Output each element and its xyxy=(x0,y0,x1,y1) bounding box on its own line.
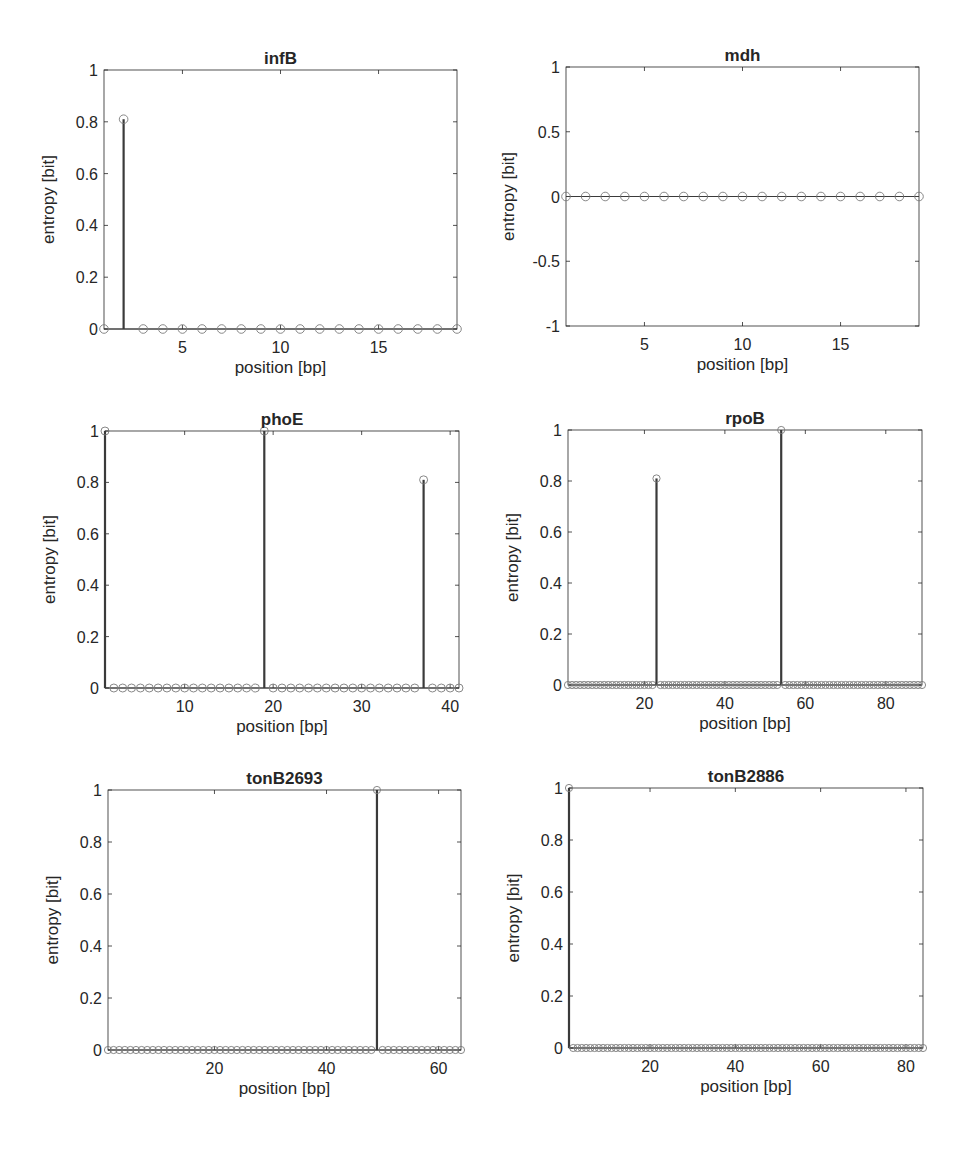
subplot-title: phoE xyxy=(261,410,304,429)
y-tick-label: 0.8 xyxy=(80,834,102,851)
x-tick-label: 40 xyxy=(318,1060,336,1077)
x-axis-label: position [bp] xyxy=(699,714,791,733)
x-tick-label: 30 xyxy=(353,698,371,715)
y-tick-label: 0.8 xyxy=(540,473,562,490)
y-axis-label: entropy [bit] xyxy=(39,155,58,244)
x-axis-label: position [bp] xyxy=(239,1079,331,1098)
y-tick-label: 1 xyxy=(553,422,562,439)
x-tick-label: 60 xyxy=(812,1058,830,1075)
y-axis-label: entropy [bit] xyxy=(40,515,59,604)
x-tick-label: 20 xyxy=(206,1060,224,1077)
y-tick-label: 0.8 xyxy=(77,474,99,491)
y-tick-label: 0 xyxy=(553,677,562,694)
y-tick-label: 0.8 xyxy=(76,114,98,131)
y-tick-label: 1 xyxy=(89,62,98,79)
y-tick-label: 0.5 xyxy=(538,124,560,141)
x-tick-label: 60 xyxy=(796,695,814,712)
x-tick-label: 60 xyxy=(430,1060,448,1077)
x-tick-label: 80 xyxy=(877,695,895,712)
x-tick-label: 10 xyxy=(272,339,290,356)
x-tick-label: 15 xyxy=(832,336,850,353)
y-tick-label: 0.4 xyxy=(77,577,99,594)
y-tick-label: 0 xyxy=(90,680,99,697)
y-tick-label: 0.4 xyxy=(540,575,562,592)
subplot-title: infB xyxy=(264,49,297,68)
y-tick-label: 0.4 xyxy=(76,217,98,234)
axes-box xyxy=(569,788,923,1048)
subplot-title: rpoB xyxy=(725,409,765,428)
y-tick-label: 0.6 xyxy=(80,886,102,903)
y-tick-label: -1 xyxy=(546,318,560,335)
x-tick-label: 20 xyxy=(641,1058,659,1075)
x-tick-label: 40 xyxy=(726,1058,744,1075)
x-tick-label: 10 xyxy=(734,336,752,353)
stem-plot-figure: 00.20.40.60.8151015infBposition [bp]entr… xyxy=(0,0,963,1150)
y-tick-label: 0.2 xyxy=(541,988,563,1005)
x-tick-label: 20 xyxy=(636,695,654,712)
y-axis-label: entropy [bit] xyxy=(499,152,518,241)
y-tick-label: 0 xyxy=(551,189,560,206)
y-tick-label: 0.2 xyxy=(76,269,98,286)
axes-box xyxy=(568,430,922,685)
y-tick-label: 0.6 xyxy=(77,526,99,543)
axes-box xyxy=(105,431,459,688)
y-tick-label: 1 xyxy=(93,782,102,799)
y-tick-label: 0.2 xyxy=(80,990,102,1007)
axes-box xyxy=(104,70,457,329)
subplot-tonb2886: 00.20.40.60.8120406080tonB2886position [… xyxy=(504,767,927,1096)
subplot-phoe: 00.20.40.60.8110203040phoEposition [bp]e… xyxy=(40,410,463,736)
x-tick-label: 15 xyxy=(370,339,388,356)
figure-canvas: 00.20.40.60.8151015infBposition [bp]entr… xyxy=(0,0,963,1150)
x-tick-label: 80 xyxy=(897,1058,915,1075)
y-tick-label: 0 xyxy=(554,1040,563,1057)
axes-box xyxy=(108,790,461,1050)
x-axis-label: position [bp] xyxy=(236,717,328,736)
subplot-title: tonB2886 xyxy=(708,767,785,786)
y-tick-label: -0.5 xyxy=(532,253,560,270)
y-tick-label: 0 xyxy=(89,321,98,338)
y-tick-label: 1 xyxy=(90,423,99,440)
x-axis-label: position [bp] xyxy=(697,355,789,374)
y-tick-label: 0.6 xyxy=(540,524,562,541)
subplot-title: tonB2693 xyxy=(246,769,323,788)
y-tick-label: 0.8 xyxy=(541,832,563,849)
y-axis-label: entropy [bit] xyxy=(503,513,522,602)
x-tick-label: 5 xyxy=(178,339,187,356)
y-tick-label: 0.2 xyxy=(77,629,99,646)
x-tick-label: 20 xyxy=(264,698,282,715)
x-tick-label: 40 xyxy=(441,698,459,715)
x-tick-label: 10 xyxy=(176,698,194,715)
subplot-mdh: -1-0.500.5151015mdhposition [bp]entropy … xyxy=(499,46,923,374)
y-tick-label: 0.6 xyxy=(76,166,98,183)
y-tick-label: 0.4 xyxy=(541,936,563,953)
x-axis-label: position [bp] xyxy=(235,358,327,377)
y-axis-label: entropy [bit] xyxy=(504,874,523,963)
y-tick-label: 1 xyxy=(554,780,563,797)
subplot-infb: 00.20.40.60.8151015infBposition [bp]entr… xyxy=(39,49,461,377)
y-tick-label: 0.2 xyxy=(540,626,562,643)
y-tick-label: 0.4 xyxy=(80,938,102,955)
x-tick-label: 40 xyxy=(716,695,734,712)
y-tick-label: 0 xyxy=(93,1042,102,1059)
y-axis-label: entropy [bit] xyxy=(43,876,62,965)
subplot-rpob: 00.20.40.60.8120406080rpoBposition [bp]e… xyxy=(503,409,926,733)
y-tick-label: 1 xyxy=(551,59,560,76)
y-tick-label: 0.6 xyxy=(541,884,563,901)
x-tick-label: 5 xyxy=(640,336,649,353)
x-axis-label: position [bp] xyxy=(700,1077,792,1096)
subplot-tonb2693: 00.20.40.60.81204060tonB2693position [bp… xyxy=(43,769,465,1098)
subplot-title: mdh xyxy=(725,46,761,65)
